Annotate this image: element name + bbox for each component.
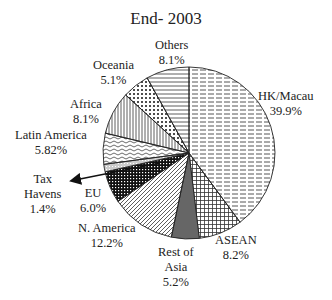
label-value: 5.2% xyxy=(158,275,194,290)
label-value: 39.9% xyxy=(258,104,314,119)
label-oceania: Oceania 5.1% xyxy=(93,58,134,88)
label-name: Latin America xyxy=(15,128,87,143)
label-eu: EU 6.0% xyxy=(80,186,106,216)
label-value: 5.1% xyxy=(93,73,134,88)
label-others: Others 8.1% xyxy=(155,38,188,68)
label-rest-of-asia: Rest of Asia 5.2% xyxy=(158,245,194,290)
label-name: HK/Macau xyxy=(258,89,314,104)
label-value: 1.4% xyxy=(24,202,62,217)
label-name: Oceania xyxy=(93,58,134,73)
label-value: 12.2% xyxy=(78,236,136,251)
label-name: N. America xyxy=(78,221,136,236)
label-value: 8.1% xyxy=(155,53,188,68)
label-name: EU xyxy=(80,186,106,201)
label-asean: ASEAN 8.2% xyxy=(215,233,257,263)
label-n-america: N. America 12.2% xyxy=(78,221,136,251)
label-name: ASEAN xyxy=(215,233,257,248)
label-hk-macau: HK/Macau 39.9% xyxy=(258,89,314,119)
label-name: Rest of xyxy=(158,245,194,260)
label-value: 5.82% xyxy=(15,143,87,158)
label-name: Asia xyxy=(158,260,194,275)
label-value: 6.0% xyxy=(80,201,106,216)
label-name: Tax xyxy=(24,172,62,187)
label-latin-america: Latin America 5.82% xyxy=(15,128,87,158)
label-name: Africa xyxy=(70,97,102,112)
label-value: 8.1% xyxy=(70,112,102,127)
label-name: Others xyxy=(155,38,188,53)
label-tax-havens: Tax Havens 1.4% xyxy=(24,172,62,217)
label-africa: Africa 8.1% xyxy=(70,97,102,127)
label-value: 8.2% xyxy=(215,248,257,263)
label-name: Havens xyxy=(24,187,62,202)
